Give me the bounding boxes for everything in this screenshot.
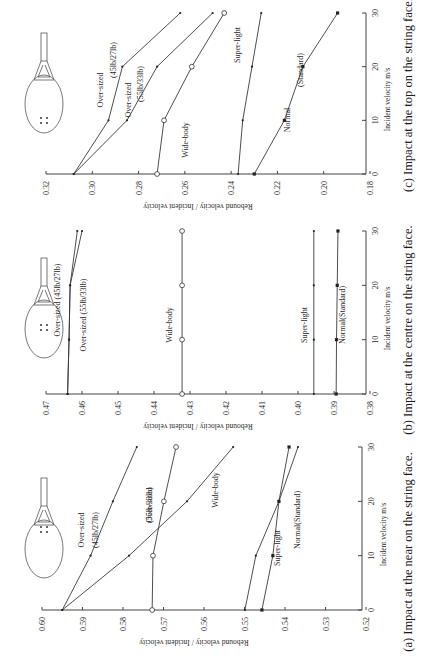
impact-point-dot	[46, 122, 48, 124]
chart-panel-c: Rebound velocity / Incident velocity	[25, 11, 370, 211]
value-tick-label: 0.54	[281, 617, 290, 631]
open-circle-marker	[189, 64, 194, 69]
velocity-axis-title: Incident velocity m/s	[383, 68, 392, 131]
tennis-racket-icon	[25, 33, 63, 133]
open-circle-marker	[162, 499, 167, 504]
series-line	[152, 447, 176, 610]
impact-point-dot	[40, 324, 42, 326]
dot-marker	[260, 12, 262, 14]
impact-point-dot	[40, 117, 42, 119]
value-tick-label: 0.38	[366, 401, 375, 415]
series-line	[254, 13, 337, 174]
series-label: Normal	[283, 107, 292, 132]
dot-marker	[251, 66, 253, 68]
value-tick-label: 0.55	[241, 617, 250, 631]
velocity-tick-label: 0	[371, 172, 380, 176]
value-tick-label: 0.18	[366, 181, 375, 195]
rotated-figure: Rebound velocity / Incident velocity0.32…	[0, 0, 433, 663]
series-label: (45lb/27lb)	[109, 42, 118, 78]
series-label: Wide-body	[165, 307, 174, 343]
filled-square-marker	[260, 608, 263, 611]
dot-marker	[156, 66, 158, 68]
impact-point-dot	[46, 329, 48, 331]
open-circle-marker	[222, 11, 227, 16]
dot-marker	[313, 339, 315, 341]
figure-canvas: Rebound velocity / Incident velocity0.32…	[0, 0, 433, 663]
velocity-tick-label: 0	[367, 608, 376, 612]
series-label: Over-sized (45lb/27lb)	[53, 263, 62, 336]
series-line	[262, 447, 289, 610]
value-tick-label: 0.30	[88, 181, 97, 195]
value-tick-label: 0.58	[119, 617, 128, 631]
impact-point-dot	[46, 531, 48, 533]
series-label: (45lb/27lb)	[91, 512, 100, 548]
dot-marker	[297, 446, 299, 448]
series-label: Normal(Standard)	[338, 286, 347, 345]
series-label: Over-sized (55lb/33lb)	[79, 278, 88, 351]
dot-marker	[81, 230, 83, 232]
impact-point-dot	[40, 329, 42, 331]
series-label: Over-sized	[124, 83, 133, 118]
open-circle-marker	[155, 172, 160, 177]
dot-marker	[232, 446, 234, 448]
value-tick-label: 0.20	[320, 181, 329, 195]
dot-marker	[121, 66, 123, 68]
value-tick-label: 0.46	[78, 401, 87, 415]
dot-marker	[126, 119, 128, 121]
open-circle-marker	[180, 229, 185, 234]
value-axis-title: Rebound velocity / Incident velocity	[143, 422, 253, 431]
value-tick-label: 0.39	[330, 401, 339, 415]
series-label: (Standard)	[296, 53, 305, 87]
panel-caption: (c) Impact at the top on the string face…	[401, 0, 415, 192]
impact-point-dot	[40, 531, 42, 533]
open-circle-marker	[150, 608, 155, 613]
series-label: Super-light	[300, 306, 309, 343]
velocity-tick-label: 30	[371, 227, 380, 235]
value-tick-label: 0.42	[222, 401, 231, 415]
series-label: (55lb/33lb)	[136, 66, 145, 102]
tennis-racket-icon	[25, 478, 63, 578]
velocity-tick-label: 30	[371, 9, 380, 17]
value-tick-label: 0.47	[42, 401, 51, 415]
filled-square-marker	[335, 392, 338, 395]
value-tick-label: 0.60	[38, 617, 47, 631]
series-label: (55lb/33lb)	[145, 487, 154, 523]
filled-square-marker	[336, 229, 339, 232]
dot-marker	[255, 555, 257, 557]
value-tick-label: 0.22	[273, 181, 282, 195]
series-label: Wide-body	[181, 122, 190, 158]
filled-square-marker	[277, 500, 280, 503]
dot-marker	[313, 393, 315, 395]
dot-marker	[76, 230, 78, 232]
dot-marker	[73, 173, 75, 175]
velocity-tick-label: 20	[367, 497, 376, 505]
value-tick-label: 0.59	[79, 617, 88, 631]
velocity-tick-label: 10	[371, 336, 380, 344]
open-circle-marker	[180, 337, 185, 342]
dot-marker	[179, 12, 181, 14]
velocity-tick-label: 20	[371, 63, 380, 71]
series-label: Super-light	[273, 529, 282, 566]
value-tick-label: 0.43	[186, 401, 195, 415]
value-tick-label: 0.32	[42, 181, 51, 195]
series-line	[157, 13, 224, 174]
open-circle-marker	[180, 283, 185, 288]
chart-panel-b: Rebound velocity / Incident velocity	[25, 229, 370, 431]
series-label: Over-sized	[96, 73, 105, 108]
dot-marker	[107, 119, 109, 121]
value-tick-label: 0.53	[322, 617, 331, 631]
dot-marker	[90, 555, 92, 557]
velocity-axis-title: Incident velocity m/s	[379, 503, 388, 566]
impact-point-dot	[46, 117, 48, 119]
dot-marker	[212, 12, 214, 14]
value-tick-label: 0.24	[227, 181, 236, 195]
dot-marker	[67, 393, 69, 395]
dot-marker	[128, 555, 130, 557]
value-axis-title: Rebound velocity / Incident velocity	[143, 202, 253, 211]
value-tick-label: 0.56	[200, 617, 209, 631]
filled-square-marker	[287, 445, 290, 448]
velocity-tick-label: 0	[371, 392, 380, 396]
series-label: Super-light	[233, 26, 242, 63]
dot-marker	[313, 230, 315, 232]
filled-square-marker	[336, 11, 339, 14]
